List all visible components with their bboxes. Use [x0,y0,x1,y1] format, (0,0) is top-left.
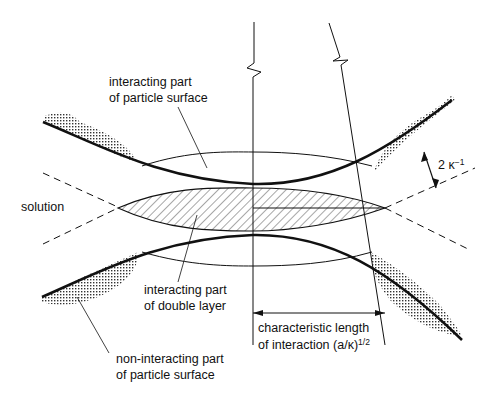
debye-exponent: −1 [455,157,465,167]
interacting-surface-arc-upper [142,152,372,166]
char-length-text: of interaction (a/κ) [258,338,358,352]
char-length-exponent: 1/2 [358,337,370,347]
label-double-layer-1: interacting part [144,282,227,298]
slanted-axis-line [329,23,385,345]
leader-non-interacting [77,297,109,353]
diagram-canvas: interacting part of particle surface sol… [0,0,495,398]
label-char-length-2: of interaction (a/κ)1/2 [258,337,370,353]
double-layer-lens [118,188,385,231]
label-char-length-1: characteristic length [258,320,369,336]
stipple-upper-left [44,113,138,162]
label-solution: solution [21,199,64,215]
dashed-line-lower-right [385,208,470,250]
stipple-lower-left [42,252,138,305]
dashed-line-upper-right [385,168,475,208]
label-non-interacting-2: of particle surface [116,367,215,383]
label-interacting-surface-2: of particle surface [109,90,208,106]
label-interacting-surface-1: interacting part [109,74,192,90]
debye-text: 2 κ [438,158,455,172]
label-non-interacting-1: non-interacting part [116,351,224,367]
leader-interacting-surface [178,107,207,168]
stipple-lower-right [372,253,462,336]
diagram-graphics [0,0,495,398]
interacting-surface-arc-lower [142,252,372,266]
label-debye-thickness: 2 κ−1 [438,157,464,173]
label-double-layer-2: of double layer [144,298,226,314]
